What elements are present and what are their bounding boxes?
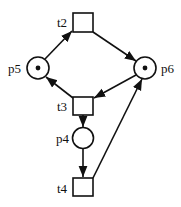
petri-net-diagram: t2 p5 p6 t3 p4 t4: [0, 0, 181, 207]
transition-t2: [73, 13, 93, 32]
arc-p5-t2: [45, 31, 72, 59]
arc-t2-p6: [93, 32, 136, 61]
label-p4: p4: [56, 131, 70, 146]
token-p5: [36, 66, 41, 71]
label-t3: t3: [57, 99, 67, 114]
arc-p6-t3: [94, 75, 136, 98]
transition-t4: [73, 178, 93, 196]
transition-t3: [73, 97, 93, 115]
label-t2: t2: [57, 15, 67, 30]
arc-t3-p5: [46, 77, 73, 98]
token-p6: [143, 66, 148, 71]
place-p4: [73, 128, 94, 149]
label-p6: p6: [161, 61, 175, 76]
label-t4: t4: [57, 181, 68, 196]
label-p5: p5: [8, 61, 21, 76]
